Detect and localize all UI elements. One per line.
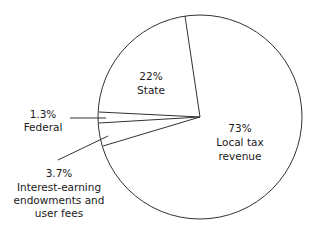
label-federal-name: Federal — [24, 121, 63, 133]
label-interest-line3: user fees — [35, 207, 83, 219]
label-local-line1: Local tax — [216, 136, 263, 148]
label-state-name: State — [137, 84, 165, 96]
label-local-line2: revenue — [219, 150, 262, 162]
label-state-pct: 22% — [139, 70, 162, 82]
label-interest-line2: endowments and — [14, 194, 105, 206]
label-federal-pct: 1.3% — [30, 108, 57, 120]
label-interest-pct: 3.7% — [46, 167, 73, 179]
label-interest-line1: Interest-earning — [17, 181, 101, 193]
leader-line-interest — [58, 136, 108, 160]
label-local-pct: 73% — [228, 122, 251, 134]
pie-chart: 22% State 1.3% Federal 73% Local tax rev… — [0, 0, 320, 229]
